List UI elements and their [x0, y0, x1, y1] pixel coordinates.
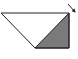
- arrow-icon: [68, 4, 75, 12]
- shaded-triangle: [35, 13, 69, 48]
- diagram-canvas: [0, 0, 78, 59]
